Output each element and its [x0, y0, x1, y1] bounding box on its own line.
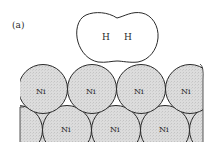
hydrogen-on-nickel-diagram: (a) H H Ni Ni Ni Ni Ni Ni Ni: [0, 0, 213, 152]
hydrogen-atom-label-1: H: [102, 32, 110, 42]
ni-label-top-2: Ni: [86, 87, 96, 96]
ni-label-bottom-1: Ni: [61, 125, 71, 134]
ni-label-top-1: Ni: [36, 87, 46, 96]
ni-label-bottom-3: Ni: [159, 125, 169, 134]
h2-molecule: [77, 13, 158, 63]
panel-label: (a): [12, 20, 24, 30]
ni-label-top-3: Ni: [134, 87, 144, 96]
hydrogen-atom-label-2: H: [124, 32, 132, 42]
nickel-surface: [0, 65, 213, 153]
ni-label-top-4: Ni: [181, 87, 191, 96]
ni-label-bottom-2: Ni: [110, 125, 120, 134]
